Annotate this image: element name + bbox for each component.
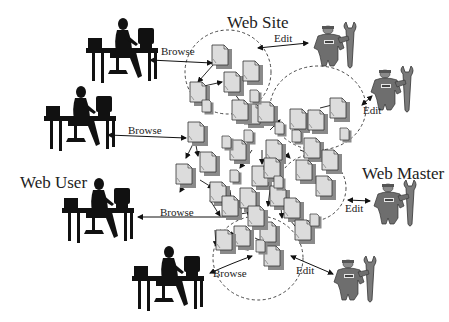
- edit-label-4: Edit: [296, 265, 314, 276]
- edit-label-2: Edit: [363, 105, 381, 116]
- web-user-title: Web User: [20, 174, 87, 191]
- web-master-title: Web Master: [362, 165, 444, 182]
- edit-label-3: Edit: [345, 203, 363, 214]
- browse-label-2: Browse: [128, 125, 162, 136]
- web-site-diagram: Web Site Web User Web Master Browse Brow…: [0, 0, 449, 322]
- web-page-nodes: [176, 45, 352, 270]
- edit-label-1: Edit: [274, 33, 292, 44]
- browse-label-1: Browse: [161, 46, 195, 57]
- browse-label-3: Browse: [160, 207, 194, 218]
- web-site-title: Web Site: [227, 14, 288, 31]
- browse-label-4: Browse: [213, 268, 247, 279]
